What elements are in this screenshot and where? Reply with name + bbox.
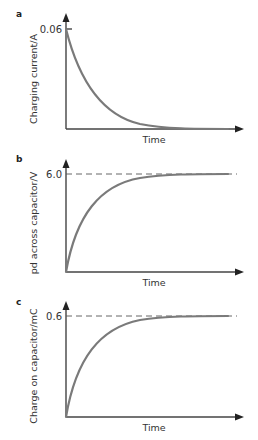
x-axis-arrow-icon xyxy=(235,269,244,276)
pd-rise-curve xyxy=(66,174,228,272)
y-axis-title: pd across capacitor/V xyxy=(28,171,39,274)
x-axis-title: Time xyxy=(141,134,165,145)
y-axis-title: Charging current/A xyxy=(28,34,39,124)
chart-panel-c: c 0.6 Charge on capacitor/mC Time xyxy=(16,297,244,433)
panel-label: b xyxy=(16,154,23,164)
y-tick-label: 6.0 xyxy=(46,169,62,180)
charge-rise-curve xyxy=(66,316,228,417)
figure: a 0.06 Charging current/A Time b 6.0 pd … xyxy=(0,0,258,440)
y-axis-arrow-icon xyxy=(63,301,70,310)
y-tick-label: 0.06 xyxy=(40,24,62,35)
chart-panel-a: a 0.06 Charging current/A Time xyxy=(16,9,244,145)
y-axis-title: Charge on capacitor/mC xyxy=(28,308,39,424)
panel-label: a xyxy=(16,9,22,19)
y-axis-arrow-icon xyxy=(63,13,70,22)
x-axis-title: Time xyxy=(141,422,165,433)
x-axis-title: Time xyxy=(141,277,165,288)
y-tick-label: 0.6 xyxy=(46,311,62,322)
x-axis-arrow-icon xyxy=(235,126,244,133)
panel-label: c xyxy=(16,297,21,307)
x-axis-arrow-icon xyxy=(235,414,244,421)
chart-panel-b: b 6.0 pd across capacitor/V Time xyxy=(16,154,244,288)
current-decay-curve xyxy=(66,29,228,129)
y-axis-arrow-icon xyxy=(63,159,70,168)
